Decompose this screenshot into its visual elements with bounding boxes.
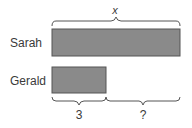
bottom-brace-label-left: 3 bbox=[76, 108, 83, 122]
bottom-brace-right bbox=[106, 97, 180, 105]
row-label-sarah: Sarah bbox=[10, 36, 42, 50]
top-brace bbox=[52, 17, 180, 26]
bottom-brace-left bbox=[52, 97, 106, 105]
top-brace-label: x bbox=[111, 4, 118, 16]
bar-gerald bbox=[52, 67, 106, 93]
bar-sarah bbox=[52, 29, 180, 56]
row-label-gerald: Gerald bbox=[10, 74, 46, 88]
tape-diagram: x Sarah Gerald 3 ? bbox=[0, 0, 192, 128]
bottom-brace-label-right: ? bbox=[140, 108, 147, 122]
